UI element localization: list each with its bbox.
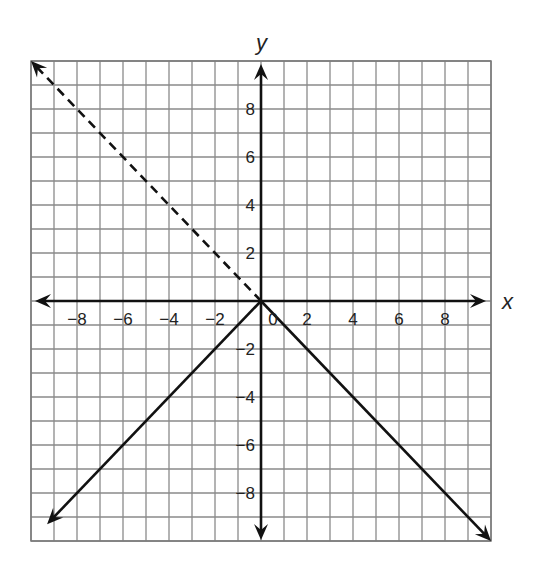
coordinate-graph: −8−6−4−2024688642−2−4−6−8 x y — [0, 0, 540, 575]
y-tick-label: 2 — [246, 244, 255, 263]
dashed-line — [37, 67, 261, 301]
y-tick-label: −8 — [236, 484, 255, 503]
x-tick-label: 0 — [268, 310, 277, 329]
y-axis-label: y — [254, 30, 269, 55]
x-tick-label: 6 — [394, 310, 403, 329]
x-tick-label: −2 — [205, 310, 224, 329]
solid-line — [53, 301, 261, 518]
y-tick-label: 8 — [246, 100, 255, 119]
x-tick-label: −6 — [113, 310, 132, 329]
x-tick-label: −4 — [159, 310, 178, 329]
y-tick-label: 6 — [246, 148, 255, 167]
x-tick-label: −8 — [67, 310, 86, 329]
x-tick-label: 8 — [440, 310, 449, 329]
y-tick-label: −6 — [236, 436, 255, 455]
x-tick-label: 2 — [302, 310, 311, 329]
x-axis-label: x — [501, 289, 514, 314]
solid-line — [261, 301, 485, 535]
x-tick-label: 4 — [348, 310, 357, 329]
y-tick-label: −4 — [236, 388, 255, 407]
y-tick-label: −2 — [236, 340, 255, 359]
y-tick-label: 4 — [246, 196, 255, 215]
